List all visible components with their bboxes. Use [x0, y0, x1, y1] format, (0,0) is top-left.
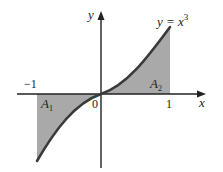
- function-label-exponent: 3: [184, 12, 189, 22]
- diagram-canvas: y x 0 −1 1 y = x3 A1 A2: [0, 0, 223, 172]
- y-axis-label: y: [86, 7, 94, 22]
- function-label: y = x3: [155, 12, 189, 29]
- origin-label: 0: [92, 97, 98, 111]
- region-a2-main: A: [149, 76, 158, 91]
- tick-label-neg-one: −1: [24, 77, 37, 91]
- y-axis-arrow-icon: [98, 11, 105, 20]
- region-a1-subscript: 1: [49, 104, 53, 113]
- x-axis-label: x: [198, 95, 205, 110]
- region-a2-subscript: 2: [158, 84, 162, 93]
- tick-label-one: 1: [166, 97, 172, 111]
- function-label-text: y = x: [155, 14, 184, 29]
- region-a1-main: A: [40, 96, 49, 111]
- cubic-area-diagram: y x 0 −1 1 y = x3 A1 A2: [0, 0, 223, 172]
